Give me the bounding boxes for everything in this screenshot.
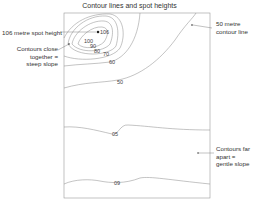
label-106: 106 [100,29,109,35]
contour-40 [64,125,210,134]
spot-height-marker [97,31,100,34]
gentle-slope-annotation: Contours far apart = gentle slope [216,145,250,168]
steep-slope-annotation: Contours close together = steep slope [6,45,58,68]
label-40: 05 [112,131,118,137]
label-50: 50 [117,79,123,85]
spot-height-annotation: 106 metre spot height [2,29,62,37]
contour-line-annotation: 50 metre contour line [216,20,248,35]
label-30: 09 [114,180,120,186]
label-60: 60 [109,59,115,65]
label-80: 80 [94,48,100,54]
label-70: 70 [103,51,109,57]
contour-30 [64,177,210,184]
